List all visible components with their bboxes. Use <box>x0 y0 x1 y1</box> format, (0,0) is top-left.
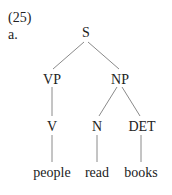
edge-np-det <box>122 87 140 116</box>
leaf-books: books <box>124 166 157 180</box>
node-n: N <box>92 120 102 134</box>
edge-s-np <box>88 42 119 69</box>
edge-np-n <box>99 87 117 116</box>
leaf-people: people <box>33 166 70 180</box>
leaf-read: read <box>85 166 109 180</box>
node-s: S <box>82 26 90 40</box>
node-v: V <box>47 120 57 134</box>
node-vp: VP <box>43 73 61 87</box>
node-det: DET <box>128 120 155 134</box>
edge-s-vp <box>53 42 84 69</box>
node-np: NP <box>111 73 129 87</box>
